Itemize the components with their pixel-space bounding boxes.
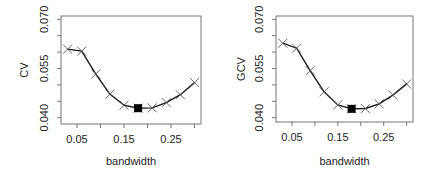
x-marker-icon xyxy=(306,66,315,75)
x-marker-icon xyxy=(91,70,100,79)
x-tick-label: 0.05 xyxy=(281,131,302,143)
minimum-square-marker xyxy=(348,105,356,113)
x-marker-icon xyxy=(320,87,329,96)
data-line xyxy=(68,49,195,108)
x-axis-label: bandwidth xyxy=(319,155,369,167)
y-tick-label: 0.070 xyxy=(253,6,265,34)
x-marker-icon xyxy=(402,79,411,88)
y-axis-label: CV xyxy=(18,62,30,78)
x-marker-icon xyxy=(278,39,287,48)
x-marker-icon xyxy=(388,91,397,100)
y-tick-label: 0.040 xyxy=(38,104,50,132)
x-marker-icon xyxy=(375,99,384,108)
data-line xyxy=(283,43,407,109)
x-marker-icon xyxy=(176,90,185,99)
y-tick-label: 0.055 xyxy=(253,55,265,83)
x-marker-icon xyxy=(105,90,114,99)
x-tick-label: 0.05 xyxy=(66,133,87,145)
x-tick-label: 0.25 xyxy=(160,133,181,145)
gcv-panel: 0.0400.0550.0700.050.150.25bandwidthGCV xyxy=(217,0,435,173)
plot-frame xyxy=(61,16,201,124)
y-tick-label: 0.055 xyxy=(38,55,50,83)
x-tick-label: 0.25 xyxy=(373,131,394,143)
cv-chart: 0.0400.0550.0700.050.150.25bandwidthCV xyxy=(0,0,218,173)
cv-panel: 0.0400.0550.0700.050.150.25bandwidthCV xyxy=(0,0,218,173)
gcv-chart: 0.0400.0550.0700.050.150.25bandwidthGCV xyxy=(217,0,435,173)
x-marker-icon xyxy=(333,100,342,109)
x-axis-label: bandwidth xyxy=(106,155,156,167)
x-marker-icon xyxy=(162,98,171,107)
y-tick-label: 0.040 xyxy=(253,104,265,132)
y-tick-label: 0.070 xyxy=(38,6,50,34)
x-tick-label: 0.15 xyxy=(113,133,134,145)
x-marker-icon xyxy=(190,78,199,87)
minimum-square-marker xyxy=(134,104,142,112)
x-marker-icon xyxy=(292,44,301,53)
y-axis-label: GCV xyxy=(235,56,247,81)
x-tick-label: 0.15 xyxy=(327,131,348,143)
